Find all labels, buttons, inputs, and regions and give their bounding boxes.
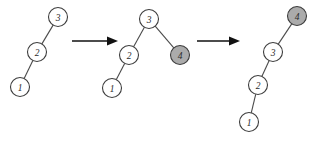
tree-edge [42, 25, 53, 44]
tree-edge [24, 61, 33, 79]
tree-edge [155, 26, 174, 48]
tree-edge [278, 24, 291, 44]
arrow-head-icon [107, 36, 118, 45]
tree-edge [134, 27, 145, 46]
tree-node-label: 3 [270, 48, 276, 58]
tree-node-label: 3 [55, 13, 61, 23]
tree-node-label: 1 [247, 118, 252, 128]
tree-edge [116, 63, 124, 79]
tree-node: 1 [103, 79, 122, 98]
tree-transformation-diagram: 32132414321 [0, 0, 325, 145]
tree-node: 1 [11, 78, 30, 97]
nodes-layer: 32132414321 [11, 7, 307, 132]
tree-node: 3 [140, 10, 159, 29]
tree-node-label: 4 [295, 12, 300, 22]
edges-layer [24, 24, 292, 113]
tree-node-label: 2 [256, 81, 261, 91]
tree-node-label: 2 [127, 51, 132, 61]
tree-node: 4 [288, 7, 307, 26]
tree-node: 2 [28, 43, 47, 62]
arrow-step1-to-step2 [72, 36, 118, 45]
tree-node-label: 3 [146, 15, 152, 25]
arrow-head-icon [229, 36, 240, 45]
tree-node: 4 [171, 46, 190, 65]
tree-node-label: 1 [110, 84, 115, 94]
tree-node: 2 [120, 46, 139, 65]
tree-edge [251, 94, 256, 113]
tree-node-label: 4 [178, 51, 183, 61]
tree-node: 3 [264, 43, 283, 62]
tree-node: 3 [49, 8, 68, 27]
tree-edge [262, 61, 269, 77]
arrow-step2-to-step3 [197, 36, 240, 45]
tree-node: 2 [249, 76, 268, 95]
tree-node-label: 1 [18, 83, 23, 93]
arrows-layer [72, 36, 240, 45]
tree-node: 1 [240, 113, 259, 132]
diagram-canvas: 32132414321 [0, 0, 325, 145]
tree-node-label: 2 [35, 48, 40, 58]
